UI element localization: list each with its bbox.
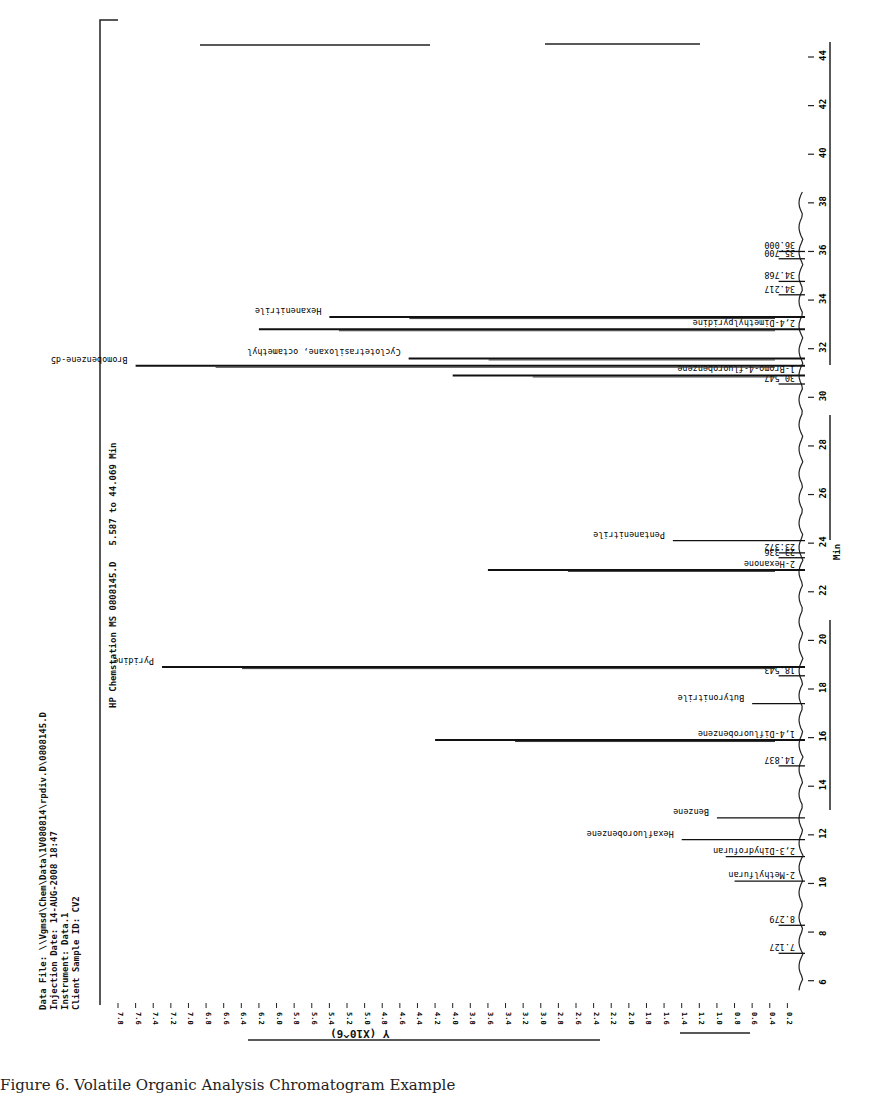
peak-label: Pyridine [113, 656, 154, 666]
x-tick-label: 14 [818, 779, 828, 790]
peak: 1,4-Difluorobenzene [435, 729, 805, 742]
peak: Cyclotetrasiloxane, octamethyl [247, 347, 805, 360]
peak: 2,3-Dihydrofuran [713, 846, 805, 857]
y-tick-label: 3.4 [504, 1012, 512, 1025]
y-tick-label: 2.0 [627, 1012, 635, 1025]
y-tick-label: 7.0 [186, 1012, 194, 1025]
y-tick-label: 5.0 [363, 1012, 371, 1025]
x-tick-label: 16 [818, 731, 828, 742]
peak: Benzene [673, 807, 805, 818]
x-tick-label: 12 [818, 828, 828, 839]
y-axis-label: Y (X10^6) [330, 1027, 390, 1040]
x-tick-label: 20 [818, 634, 828, 645]
peak: 34.217 [764, 284, 805, 295]
peak-label: Pentanenitrile [593, 530, 665, 540]
y-tick-label: 0.4 [768, 1012, 776, 1025]
x-tick-label: 30 [818, 390, 828, 401]
peak-label: Bromobenzene-d5 [51, 355, 128, 365]
peak: Hexafluorobenzene [587, 829, 805, 840]
x-tick-label: 18 [818, 682, 828, 693]
figure-caption: Figure 6. Volatile Organic Analysis Chro… [0, 1076, 455, 1094]
peak: Pentanenitrile [593, 530, 805, 541]
x-tick-label: 8 [818, 931, 828, 936]
peak-label: 36.000 [764, 240, 795, 250]
peak: Pyridine [113, 656, 805, 669]
x-tick-label: 26 [818, 488, 828, 499]
y-tick-label: 6.8 [204, 1012, 212, 1025]
x-tick-label: 44 [818, 50, 828, 61]
y-tick-label: 7.2 [169, 1012, 177, 1025]
peak-label: Butyronitrile [678, 693, 745, 703]
y-tick-label: 7.6 [134, 1012, 142, 1025]
peak-label: 2,3-Dihydrofuran [713, 846, 795, 856]
peak-label: Hexafluorobenzene [587, 829, 674, 839]
y-tick-label: 6.0 [275, 1012, 283, 1025]
x-tick-label: 10 [818, 877, 828, 888]
x-tick-label: 22 [818, 585, 828, 596]
y-tick-label: 5.4 [327, 1012, 335, 1025]
frame-left [100, 20, 118, 1005]
y-tick-label: 4.6 [398, 1012, 406, 1025]
x-tick-label: 38 [818, 196, 828, 207]
y-tick-label: 5.8 [292, 1012, 300, 1025]
peak: 14.837 [764, 755, 805, 766]
y-tick-label: 6.4 [239, 1012, 247, 1025]
y-tick-label: 3.0 [539, 1012, 547, 1025]
peak-label: 8.279 [769, 914, 795, 924]
peak-label: 23.372 [764, 542, 795, 552]
peak-label: 2-Methylfuran [728, 870, 795, 880]
x-tick-label: 24 [818, 536, 828, 547]
y-tick-label: 1.2 [697, 1012, 705, 1025]
peak-label: 1,4-Difluorobenzene [698, 729, 795, 739]
y-tick-label: 3.2 [521, 1012, 529, 1025]
y-tick-label: 7.8 [116, 1012, 124, 1025]
peak-label: Cyclotetrasiloxane, octamethyl [247, 347, 401, 357]
y-tick-label: 5.2 [345, 1012, 353, 1025]
y-tick-label: 0.8 [733, 1012, 741, 1025]
y-tick-label: 1.6 [662, 1012, 670, 1025]
y-tick-label: 2.8 [556, 1012, 564, 1025]
baseline-trace [799, 192, 803, 991]
peak: Bromobenzene-d5 [51, 355, 805, 368]
y-tick-label: 4.8 [380, 1012, 388, 1025]
x-tick-label: 34 [818, 293, 828, 304]
y-tick-label: 0.6 [750, 1012, 758, 1025]
x-tick-label: 42 [818, 99, 828, 110]
peak-label: 2-Hexanone [744, 559, 795, 569]
y-tick-label: 3.8 [468, 1012, 476, 1025]
y-tick-label: 2.4 [592, 1012, 600, 1025]
y-tick-label: 6.6 [222, 1012, 230, 1025]
y-tick-label: 4.0 [451, 1012, 459, 1025]
x-tick-label: 40 [818, 147, 828, 158]
peak-label: 34.768 [764, 270, 795, 280]
x-tick-label: 28 [818, 439, 828, 450]
peak-label: 34.217 [764, 284, 795, 294]
peak-label: 14.837 [764, 755, 795, 765]
y-tick-label: 4.4 [415, 1012, 423, 1025]
peak-label: Hexanenitrile [255, 306, 322, 316]
y-tick-label: 1.0 [715, 1012, 723, 1025]
chromatogram-chart: 681012141618202224262830323436384042440.… [0, 0, 884, 1098]
x-axis-label: Min [832, 544, 842, 560]
y-tick-label: 2.6 [574, 1012, 582, 1025]
peak-label: 2,4-Dimethylpyridine [693, 318, 795, 328]
peak: Hexanenitrile [255, 306, 805, 319]
y-tick-label: 6.2 [257, 1012, 265, 1025]
x-tick-label: 32 [818, 342, 828, 353]
y-tick-label: 0.2 [785, 1012, 793, 1025]
peak-label: 7.127 [769, 942, 795, 952]
peak: 2,4-Dimethylpyridine [259, 318, 805, 331]
y-tick-label: 5.6 [310, 1012, 318, 1025]
y-tick-label: 2.2 [609, 1012, 617, 1025]
y-tick-label: 7.4 [151, 1012, 159, 1025]
x-tick-label: 6 [818, 979, 828, 984]
y-tick-label: 3.6 [486, 1012, 494, 1025]
peak: 2-Hexanone [488, 559, 805, 572]
x-tick-label: 36 [818, 245, 828, 256]
peak: 2-Methylfuran [728, 870, 805, 881]
peak-label: Benzene [673, 807, 709, 817]
peak: Butyronitrile [678, 693, 805, 704]
y-tick-label: 1.4 [680, 1012, 688, 1025]
y-tick-label: 4.2 [433, 1012, 441, 1025]
y-tick-label: 1.8 [644, 1012, 652, 1025]
